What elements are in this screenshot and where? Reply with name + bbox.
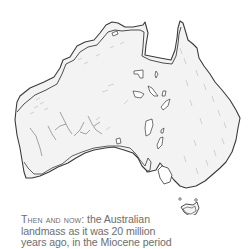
australia-miocene-map xyxy=(0,0,252,215)
caption-line-1-rest: the Australian xyxy=(84,213,150,225)
bass-strait-island xyxy=(179,198,181,200)
caption-line-1: Then and now: the Australian xyxy=(21,214,181,226)
figure-caption: Then and now: the Australian landmass as… xyxy=(21,214,181,249)
miocene-landmass-outline xyxy=(15,21,240,188)
figure: Then and now: the Australian landmass as… xyxy=(0,0,252,249)
flinders-island xyxy=(195,199,198,202)
caption-line-3: years ago, in the Miocene period xyxy=(21,237,181,249)
caption-lead: Then and now: xyxy=(21,213,84,225)
